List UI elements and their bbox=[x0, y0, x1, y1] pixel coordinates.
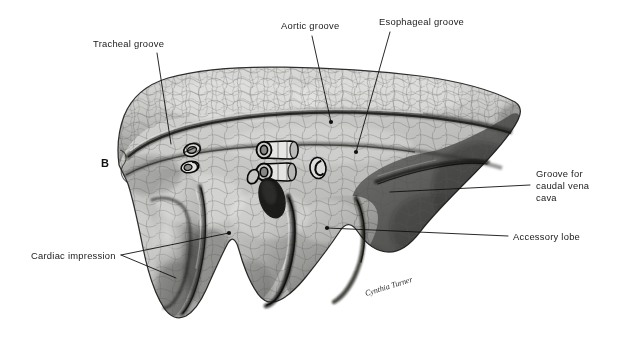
leader-dot-cardiac-impression bbox=[227, 231, 231, 235]
label-tracheal-groove: Tracheal groove bbox=[93, 38, 164, 49]
artist-signature: Cynthia Turner bbox=[364, 275, 414, 298]
leader-dot-accessory-lobe bbox=[325, 226, 329, 230]
panel-letter: B bbox=[101, 157, 109, 169]
figure-container: Cynthia Turner B Tracheal groove Aortic … bbox=[0, 0, 621, 356]
label-aortic-groove: Aortic groove bbox=[281, 20, 339, 31]
bronchus-section-central-lower bbox=[256, 163, 296, 181]
label-caudal-vena-cava-line1: Groove for bbox=[536, 168, 583, 179]
bronchus-section-central-upper bbox=[257, 141, 299, 159]
label-caudal-vena-cava-line2: caudal vena bbox=[536, 180, 590, 191]
label-esophageal-groove: Esophageal groove bbox=[379, 16, 464, 27]
lung-base-shading bbox=[100, 55, 542, 335]
lung-specimen: Cynthia Turner bbox=[100, 55, 542, 335]
leader-dot-esophageal-groove bbox=[354, 150, 358, 154]
lung-illustration: Cynthia Turner B Tracheal groove Aortic … bbox=[0, 0, 621, 356]
leader-dot-aortic-groove bbox=[329, 120, 333, 124]
label-cardiac-impression: Cardiac impression bbox=[31, 250, 116, 261]
label-accessory-lobe: Accessory lobe bbox=[513, 231, 580, 242]
label-caudal-vena-cava-line3: cava bbox=[536, 192, 557, 203]
